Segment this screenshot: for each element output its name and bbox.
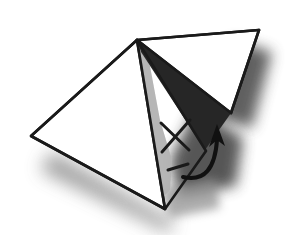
figure-root: Folded pyramid diagram Line drawing of a… [0,0,285,235]
pyramid-diagram [0,0,285,235]
